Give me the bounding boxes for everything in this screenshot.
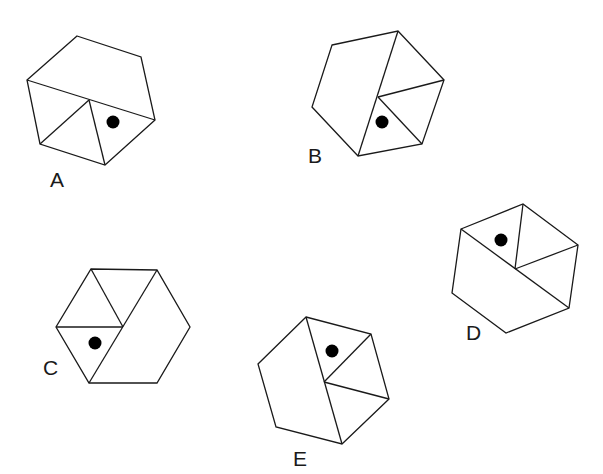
hexagon-e: E <box>258 317 389 470</box>
division-line <box>324 334 371 382</box>
hexagon-a: A <box>27 36 155 191</box>
division-line <box>89 100 105 165</box>
hexagon-b: B <box>308 31 444 167</box>
division-line <box>306 317 342 444</box>
black-dot <box>326 345 339 358</box>
division-line <box>91 269 123 327</box>
hexagon-label: B <box>308 144 322 167</box>
hexagon-puzzle-diagram: A B C D E <box>0 0 603 474</box>
black-dot <box>107 116 120 129</box>
black-dot <box>376 116 389 129</box>
hexagon-division-lines <box>461 204 578 308</box>
hexagon-label: A <box>50 168 64 191</box>
hexagon-division-lines <box>358 31 444 156</box>
division-line <box>378 80 444 97</box>
hexagon-label: D <box>466 321 481 344</box>
division-line <box>40 100 89 144</box>
hexagon-division-lines <box>27 80 155 165</box>
hexagon-d: D <box>452 204 578 344</box>
hexagon-label: E <box>293 447 307 470</box>
division-line <box>324 382 389 399</box>
hexagon-label: C <box>43 356 58 379</box>
black-dot <box>89 337 102 350</box>
hexagon-division-lines <box>306 317 389 444</box>
division-line <box>515 245 578 269</box>
division-line <box>515 204 523 269</box>
hexagon-c: C <box>43 269 190 383</box>
hexagon-division-lines <box>56 269 157 383</box>
black-dot <box>495 234 508 247</box>
division-line <box>27 80 155 120</box>
